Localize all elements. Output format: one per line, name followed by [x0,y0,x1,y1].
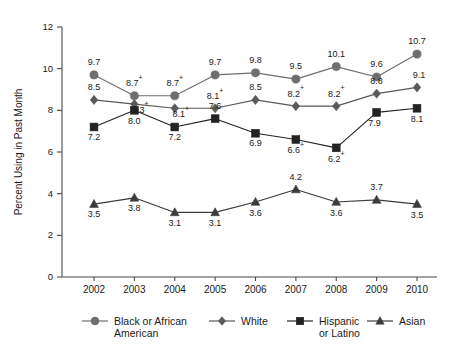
x-tick-label: 2003 [123,284,146,295]
legend-label-line1: White [241,315,268,327]
marker-circle [211,71,219,79]
circle-icon [91,317,99,325]
legend-label-line1: Hispanic [319,315,359,327]
data-label: 10.7 [408,36,426,46]
data-label: 8.1 [411,114,424,124]
data-label: 3.8 [128,203,141,213]
data-label: 7.6 [209,101,222,111]
data-label: 8.5 [88,82,101,92]
y-tick-label: 12 [42,21,53,32]
x-tick-label: 2010 [406,284,429,295]
data-label: 3.5 [411,210,424,220]
legend-item-hispanic[interactable]: Hispanicor Latino [287,315,360,339]
data-label: 7.9 [368,118,381,128]
data-label: 9.8 [249,55,262,65]
data-label: 8.1+ [207,86,224,100]
marker-circle [171,92,179,100]
marker-diamond [373,89,381,98]
data-label: 9.7 [209,57,222,67]
data-label: 10.1 [327,49,345,59]
data-label: 9.5 [290,61,303,71]
marker-square [252,129,260,137]
legend-item-black-or-african[interactable]: Black or AfricanAmerican [82,315,187,339]
marker-square [211,115,219,123]
y-axis-title: Percent Using in Past Month [13,89,24,216]
data-label: 8.8 [370,76,383,86]
legend: Black or AfricanAmericanWhiteHispanicor … [82,315,425,339]
marker-circle [332,62,340,70]
marker-square [413,104,421,112]
marker-diamond [413,83,421,92]
marker-square [171,123,179,131]
x-tick-label: 2009 [366,284,389,295]
marker-circle [90,71,98,79]
data-label: 8.2+ [288,84,305,98]
marker-square [373,109,381,117]
marker-triangle [292,185,301,193]
data-label: 3.1 [209,218,222,228]
marker-circle [413,50,421,58]
data-label: 8.2+ [328,84,345,98]
data-label: 8.5 [249,82,262,92]
marker-diamond [252,95,260,104]
square-icon [296,317,303,324]
chart-canvas: 0246810122002200320042005200620072008200… [0,0,456,351]
marker-triangle [130,193,139,201]
data-label: 8.7+ [126,73,143,87]
line-chart: 0246810122002200320042005200620072008200… [0,0,456,351]
data-label: 9.6 [370,59,383,69]
x-tick-label: 2006 [244,284,267,295]
data-label: 3.5 [88,209,101,219]
data-label: 9.7 [88,57,101,67]
marker-circle [130,92,138,100]
data-label: 7.2 [88,132,101,142]
legend-label-line2: or Latino [319,327,360,339]
legend-label-line2: American [114,327,159,339]
marker-square [90,123,98,131]
marker-diamond [332,102,340,111]
legend-label-line1: Black or African [114,315,187,327]
series-hispanic-or-latino: 7.28.07.27.66.96.6+6.2+7.98.1 [88,101,424,164]
data-label: 3.6 [249,208,262,218]
series-asian: 3.53.83.13.13.64.23.63.73.5 [88,172,424,228]
marker-square [130,106,138,114]
legend-item-white[interactable]: White [209,315,268,327]
marker-diamond [90,95,98,104]
triangle-icon [376,317,384,325]
y-tick-label: 8 [48,104,53,115]
marker-circle [251,69,259,77]
y-tick-label: 0 [48,271,53,282]
data-label: 3.1 [168,218,181,228]
data-label: 3.6 [330,208,343,218]
data-label: 9.1 [413,70,426,80]
y-tick-label: 6 [48,146,53,157]
data-label: 7.2 [168,132,181,142]
y-tick-label: 4 [48,188,53,199]
y-tick-label: 2 [48,229,53,240]
marker-square [292,136,300,144]
legend-item-asian[interactable]: Asian [367,315,425,327]
marker-triangle [372,195,381,203]
legend-label-line1: Asian [399,315,425,327]
data-label: 8.7+ [166,73,183,87]
x-tick-label: 2005 [204,284,227,295]
data-label: 6.9 [249,138,262,148]
marker-square [332,144,340,152]
y-tick-label: 10 [42,63,53,74]
data-label: 4.2 [290,172,303,182]
data-label: 8.0 [128,116,141,126]
x-tick-label: 2004 [164,284,187,295]
marker-circle [292,75,300,83]
marker-diamond [292,102,300,111]
x-tick-label: 2008 [325,284,348,295]
x-tick-label: 2007 [285,284,308,295]
x-tick-label: 2002 [83,284,106,295]
diamond-icon [218,317,225,326]
data-label: 3.7 [370,182,383,192]
